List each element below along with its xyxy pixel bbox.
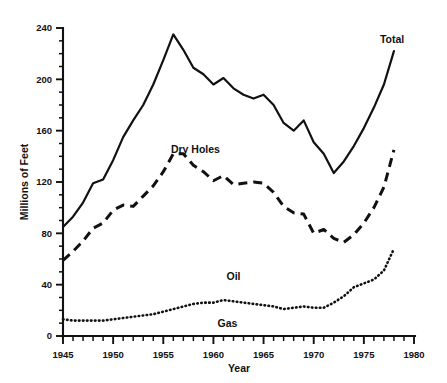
y-tick-label: 80 (41, 228, 52, 239)
series-line-dry-holes (63, 150, 394, 260)
series-label-total: Total (380, 33, 404, 45)
series-line-gas (63, 249, 394, 321)
chart-figure: 04080120160200240 1945195019551960196519… (0, 0, 447, 383)
x-axis-title: Year (228, 362, 250, 374)
x-tick-label: 1970 (303, 349, 324, 360)
x-tick-label: 1975 (353, 349, 375, 360)
y-tick-label: 160 (36, 125, 52, 136)
series-line-total (63, 34, 394, 227)
y-tick-label: 240 (36, 22, 52, 33)
y-axis-tick-labels: 04080120160200240 (36, 22, 52, 341)
drilling-footage-line-chart: 04080120160200240 1945195019551960196519… (0, 0, 447, 383)
y-tick-label: 0 (47, 330, 52, 341)
x-tick-label: 1950 (103, 349, 124, 360)
y-tick-label: 120 (36, 176, 52, 187)
series-label-gas: Gas (218, 317, 238, 329)
x-axis-tick-labels: 19451950195519601965197019751980 (52, 349, 424, 360)
x-tick-label: 1980 (403, 349, 424, 360)
x-tick-label: 1960 (203, 349, 224, 360)
x-axis-ticks (63, 336, 414, 344)
x-tick-label: 1945 (52, 349, 74, 360)
series-label-oil: Oil (226, 270, 240, 282)
y-tick-label: 40 (41, 279, 52, 290)
x-tick-label: 1955 (153, 349, 175, 360)
x-tick-label: 1965 (253, 349, 275, 360)
series-label-dry-holes: Dry Holes (171, 143, 220, 155)
y-axis-title: Millions of Feet (18, 143, 30, 220)
y-tick-label: 200 (36, 74, 52, 85)
